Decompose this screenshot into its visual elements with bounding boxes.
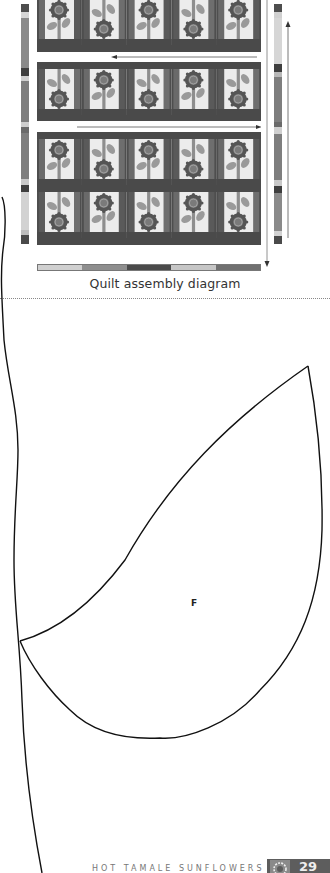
left-border-strip (21, 4, 29, 122)
quilt-row-3 (37, 132, 261, 192)
quilt-row-1 (37, 0, 261, 52)
template-piece-outline (0, 190, 330, 873)
sunflower-icon (270, 860, 290, 873)
row-1-2-arrow-icon (111, 55, 257, 59)
page-number-badge: 29 (267, 859, 330, 873)
page-number: 29 (299, 859, 317, 873)
row-2-3-arrow-icon (77, 125, 261, 129)
right-border-strip (274, 4, 282, 122)
quilt-row-2 (37, 62, 261, 121)
piece-label-f: F (191, 598, 197, 608)
footer-title: HOT TAMALE SUNFLOWERS (92, 864, 265, 873)
